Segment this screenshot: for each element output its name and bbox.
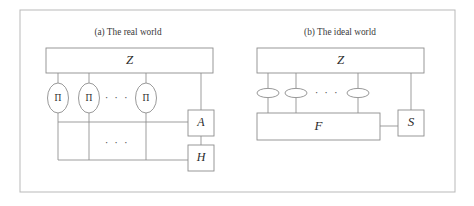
ideal-functionality-label: F (314, 118, 324, 133)
protocol-party-label-1: Π (55, 93, 62, 103)
protocol-party-label-2: Π (86, 93, 93, 103)
environment-label-a: Z (126, 52, 134, 67)
panel-a-caption: (a) The real world (94, 27, 162, 38)
adversary-label: A (196, 115, 205, 129)
diagram-canvas: (a) The real world Z Π Π Π · · · (0, 0, 474, 206)
simulator-label: S (408, 114, 415, 129)
dummy-party-ellipse-3 (347, 88, 369, 97)
panel-b-caption: (b) The ideal world (304, 27, 376, 38)
protocol-party-label-3: Π (143, 93, 150, 103)
party-ellipsis-a-lower: · · · (105, 136, 130, 148)
dummy-party-ellipse-1 (257, 88, 279, 97)
dummy-party-ellipse-2 (285, 88, 307, 97)
party-ellipsis-a-upper: · · · (105, 91, 130, 103)
environment-label-b: Z (337, 52, 345, 67)
party-ellipsis-b: · · · (315, 86, 340, 98)
honest-label: H (196, 150, 207, 164)
figure-container: (a) The real world Z Π Π Π · · · (0, 0, 474, 206)
